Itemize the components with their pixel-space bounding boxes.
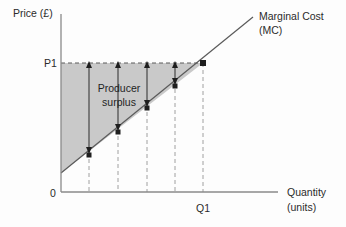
y-axis-label: Price (£) [13, 7, 53, 19]
x-axis-label-line1: Quantity [287, 186, 327, 198]
diagram-canvas: Price (£) Quantity (units) Marginal Cost… [0, 0, 346, 227]
marginal-cost-label-line2: (MC) [259, 24, 282, 36]
price-tick-label-p1: P1 [44, 57, 57, 69]
quantity-tick-label-q1: Q1 [196, 202, 210, 214]
producer-surplus-label-line2: surplus [102, 96, 136, 108]
equilibrium-point-marker [200, 60, 206, 66]
producer-surplus-label-line1: Producer [98, 82, 141, 94]
marginal-cost-label-line1: Marginal Cost [259, 10, 324, 22]
x-axis-label-line2: (units) [287, 201, 316, 213]
producer-surplus-region [61, 63, 203, 173]
producer-surplus-diagram: Price (£) Quantity (units) Marginal Cost… [0, 0, 346, 227]
origin-label: 0 [50, 187, 56, 199]
